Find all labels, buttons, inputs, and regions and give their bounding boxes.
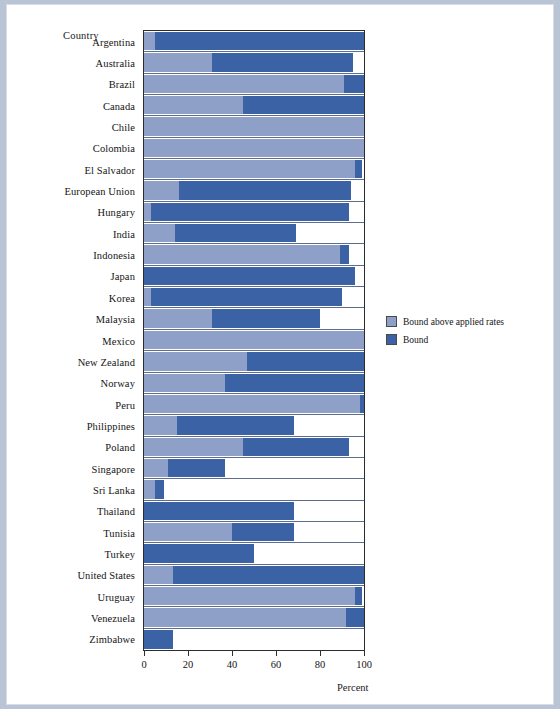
- y-axis-tick-label: El Salvador: [85, 164, 135, 175]
- stacked-bar: [144, 523, 294, 541]
- bar-row: [144, 266, 364, 287]
- bar-row: [144, 543, 364, 564]
- y-axis-tick-label: Sri Lanka: [93, 484, 135, 495]
- y-axis-tick-label: Venezuela: [91, 612, 135, 623]
- bar-row: [144, 351, 364, 372]
- x-axis-tick: [188, 651, 189, 656]
- stacked-bar: [144, 160, 362, 178]
- bar-row: [144, 308, 364, 329]
- x-axis-title: Percent: [337, 682, 369, 693]
- bar-segment-bound: [355, 160, 362, 178]
- bar-segment-bound: [151, 288, 342, 306]
- bar-row: [144, 95, 364, 116]
- legend-label: Bound above applied rates: [403, 317, 504, 327]
- bar-segment-bound-above-applied: [144, 96, 243, 114]
- bar-row: [144, 394, 364, 415]
- stacked-bar: [144, 117, 364, 135]
- bar-segment-bound-above-applied: [144, 416, 177, 434]
- bar-segment-bound: [355, 587, 362, 605]
- x-axis-tick: [364, 651, 365, 656]
- stacked-bar: [144, 32, 364, 50]
- bar-segment-bound: [144, 544, 254, 562]
- bar-segment-bound-above-applied: [144, 224, 175, 242]
- y-axis-tick-label: Colombia: [93, 143, 135, 154]
- stacked-bar: [144, 544, 254, 562]
- bar-segment-bound-above-applied: [144, 117, 364, 135]
- x-axis-tick-label: 40: [227, 659, 238, 670]
- bar-segment-bound: [173, 566, 364, 584]
- bar-segment-bound: [175, 224, 296, 242]
- bar-segment-bound-above-applied: [144, 331, 364, 349]
- y-axis-tick-label: European Union: [64, 186, 135, 197]
- bar-segment-bound: [346, 608, 364, 626]
- bar-segment-bound-above-applied: [144, 566, 173, 584]
- bar-segment-bound-above-applied: [144, 352, 247, 370]
- bar-segment-bound-above-applied: [144, 203, 151, 221]
- bar-segment-bound-above-applied: [144, 288, 151, 306]
- bar-row: [144, 586, 364, 607]
- bar-segment-bound-above-applied: [144, 309, 212, 327]
- stacked-bar: [144, 395, 364, 413]
- x-axis-tick-label: 20: [183, 659, 194, 670]
- legend-item: Bound above applied rates: [386, 316, 546, 327]
- y-axis-tick-label: United States: [77, 570, 135, 581]
- chart-page: Country ArgentinaAustraliaBrazilCanadaCh…: [7, 5, 553, 704]
- bar-segment-bound: [179, 181, 351, 199]
- stacked-bar: [144, 224, 296, 242]
- bar-segment-bound: [243, 438, 349, 456]
- y-axis-tick-label: Korea: [109, 292, 135, 303]
- y-axis-tick-label: Australia: [96, 58, 135, 69]
- bar-row: [144, 116, 364, 137]
- bar-row: [144, 330, 364, 351]
- bar-segment-bound: [340, 245, 349, 263]
- y-axis-tick-label: Malaysia: [96, 314, 135, 325]
- bar-segment-bound: [144, 502, 294, 520]
- stacked-bar: [144, 203, 349, 221]
- bar-segment-bound: [360, 395, 364, 413]
- y-axis-tick-label: Singapore: [92, 463, 135, 474]
- bar-segment-bound: [168, 459, 225, 477]
- x-axis-tick-label: 60: [271, 659, 282, 670]
- stacked-bar: [144, 96, 364, 114]
- x-axis-tick: [276, 651, 277, 656]
- bar-segment-bound: [144, 267, 355, 285]
- y-axis-tick-label: Tunisia: [103, 527, 135, 538]
- stacked-bar: [144, 331, 364, 349]
- stacked-bar: [144, 267, 355, 285]
- bar-row: [144, 52, 364, 73]
- y-axis-tick-label: Poland: [105, 442, 135, 453]
- stacked-bar: [144, 245, 349, 263]
- stacked-bar: [144, 566, 364, 584]
- bar-row: [144, 501, 364, 522]
- legend: Bound above applied ratesBound: [386, 316, 546, 352]
- stacked-bar: [144, 139, 364, 157]
- bar-segment-bound: [155, 32, 364, 50]
- bar-segment-bound-above-applied: [144, 53, 212, 71]
- bar-segment-bound-above-applied: [144, 374, 225, 392]
- y-axis-tick-label: Uruguay: [98, 591, 135, 602]
- bar-row: [144, 479, 364, 500]
- x-axis: 020406080100: [143, 651, 365, 681]
- y-axis-tick-label: Zimbabwe: [89, 634, 135, 645]
- bar-row: [144, 244, 364, 265]
- bar-segment-bound: [232, 523, 294, 541]
- bar-row: [144, 522, 364, 543]
- stacked-bar: [144, 587, 362, 605]
- bar-segment-bound-above-applied: [144, 160, 355, 178]
- bar-segment-bound: [344, 75, 364, 93]
- legend-label: Bound: [403, 335, 428, 345]
- stacked-bar: [144, 480, 164, 498]
- bar-segment-bound-above-applied: [144, 438, 243, 456]
- legend-swatch-bound: [386, 334, 397, 345]
- bar-row: [144, 202, 364, 223]
- bar-segment-bound: [177, 416, 294, 434]
- bar-segment-bound-above-applied: [144, 139, 364, 157]
- bar-row: [144, 629, 364, 650]
- bar-segment-bound-above-applied: [144, 245, 340, 263]
- bar-segment-bound-above-applied: [144, 608, 346, 626]
- y-axis-tick-label: Philippines: [87, 420, 135, 431]
- y-axis-tick-label: Peru: [115, 399, 135, 410]
- bar-segment-bound: [212, 53, 353, 71]
- stacked-bar: [144, 608, 364, 626]
- x-axis-tick-label: 0: [141, 659, 146, 670]
